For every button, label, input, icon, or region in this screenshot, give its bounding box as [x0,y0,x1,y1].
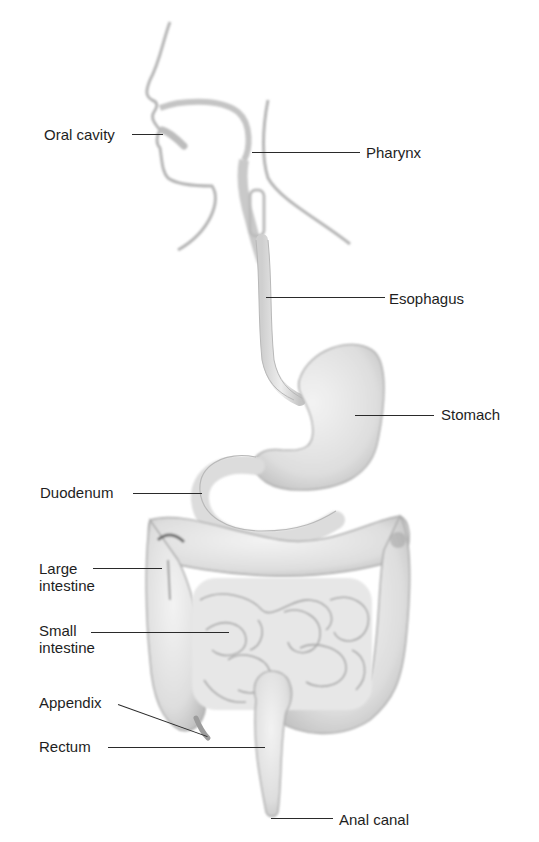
label-esophagus: Esophagus [389,290,464,307]
leader-line-large-intestine [93,568,162,569]
head-neck-silhouette [147,22,350,262]
leader-line-rectum [108,747,265,748]
rectum-shape [254,671,291,816]
label-large-intestine: Large intestine [39,560,95,594]
leader-line-esophagus [266,297,385,298]
leader-line-pharynx [252,152,360,153]
label-pharynx: Pharynx [366,144,421,161]
label-anal-canal: Anal canal [339,811,409,828]
label-stomach: Stomach [441,406,500,423]
digestive-system-diagram: Oral cavity Pharynx Esophagus Stomach Du… [0,0,539,842]
label-duodenum: Duodenum [40,484,113,501]
label-oral-cavity: Oral cavity [44,126,115,143]
label-rectum: Rectum [39,738,91,755]
leader-line-duodenum [133,493,202,494]
leader-line-anal-canal [271,818,333,819]
label-small-intestine: Small intestine [39,622,95,656]
leader-line-oral-cavity [132,134,163,135]
leader-line-small-intestine [91,632,229,633]
leader-line-stomach [355,415,434,416]
label-appendix: Appendix [39,694,102,711]
